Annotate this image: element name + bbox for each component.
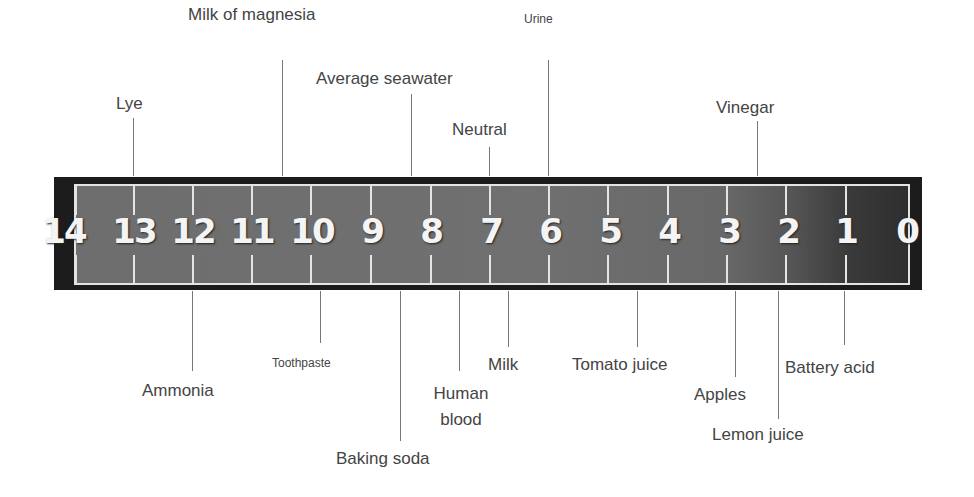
label-lemon-juice: Lemon juice [712, 425, 804, 445]
scale-tick [192, 255, 194, 285]
leader-line [778, 291, 779, 419]
leader-line [735, 291, 736, 377]
scale-tick [133, 255, 135, 285]
label-toothpaste: Toothpaste [272, 353, 331, 373]
ph-number: 5 [585, 211, 635, 251]
ph-number: 6 [525, 211, 575, 251]
ph-number: 9 [347, 211, 397, 251]
leader-line [133, 118, 134, 176]
ph-number: 10 [287, 211, 337, 251]
scale-tick [251, 255, 253, 285]
label-urine: Urine [524, 9, 553, 29]
ph-number: 14 [39, 211, 89, 251]
ph-number: 13 [109, 211, 159, 251]
ph-number: 12 [168, 211, 218, 251]
ph-number: 7 [466, 211, 516, 251]
leader-line [320, 291, 321, 343]
scale-tick [430, 255, 432, 285]
label-vinegar: Vinegar [716, 98, 774, 118]
label-neutral: Neutral [452, 120, 507, 140]
label-baking-soda: Baking soda [336, 449, 430, 469]
scale-tick [726, 255, 728, 285]
leader-line [459, 291, 460, 371]
ph-number: 3 [704, 211, 754, 251]
label-battery-acid: Battery acid [785, 358, 875, 378]
leader-line [844, 291, 845, 345]
label-lye: Lye [116, 94, 143, 114]
scale-tick [489, 255, 491, 285]
scale-tick [75, 255, 77, 285]
leader-line [637, 291, 638, 347]
scale-tick [310, 255, 312, 285]
leader-line [489, 147, 490, 176]
scale-tick [667, 255, 669, 285]
ph-number: 11 [227, 211, 277, 251]
leader-line [757, 121, 758, 176]
label-human-blood: Human blood [416, 381, 506, 433]
ph-number: 2 [763, 211, 813, 251]
ph-number: 1 [821, 211, 871, 251]
scale-tick [845, 255, 847, 285]
label-milk: Milk [488, 355, 518, 375]
leader-line [282, 60, 283, 176]
label-tomato-juice: Tomato juice [572, 355, 667, 375]
ph-number: 8 [406, 211, 456, 251]
scale-tick [785, 255, 787, 285]
label-average-seawater: Average seawater [316, 69, 453, 89]
leader-line [192, 291, 193, 371]
scale-tick [370, 255, 372, 285]
label-ammonia: Ammonia [142, 381, 214, 401]
leader-line [411, 94, 412, 176]
label-milk-of-magnesia: Milk of magnesia [188, 5, 316, 25]
scale-tick [548, 255, 550, 285]
scale-tick [607, 255, 609, 285]
leader-line [508, 291, 509, 347]
ph-number: 0 [882, 211, 932, 251]
label-apples: Apples [694, 385, 746, 405]
ph-number: 4 [644, 211, 694, 251]
leader-line [548, 60, 549, 176]
scale-tick [908, 255, 910, 285]
leader-line [400, 291, 401, 441]
